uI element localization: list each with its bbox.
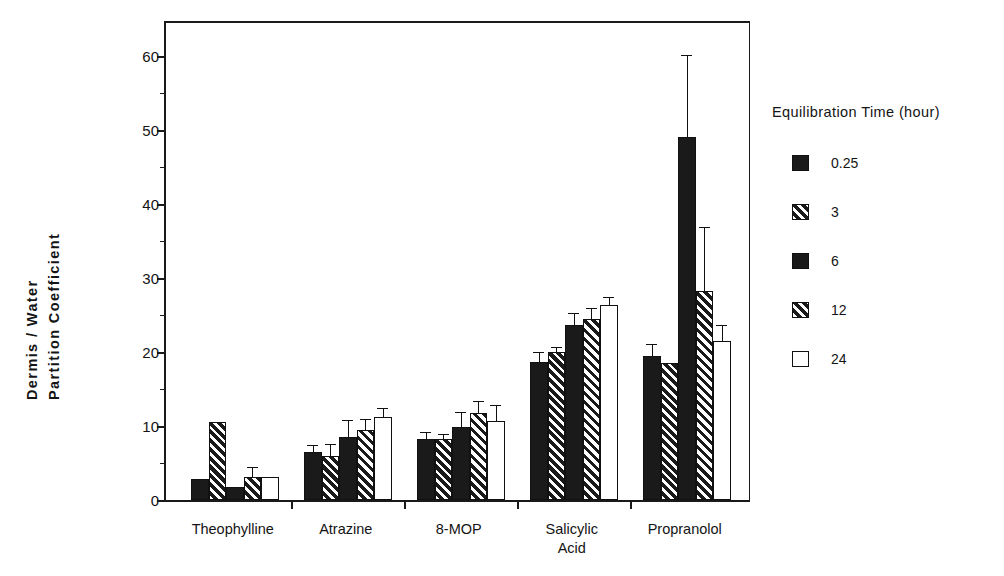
y-axis-title-line-1: Dermis / Water <box>24 279 40 400</box>
error-bar-cap <box>325 444 336 445</box>
y-tick-label: 60 <box>142 48 159 65</box>
legend-item-label: 3 <box>831 204 839 220</box>
error-bar-stem <box>443 435 444 439</box>
error-bar-stem <box>591 309 592 319</box>
bar-group <box>530 23 618 500</box>
bar[interactable] <box>417 439 435 500</box>
y-tick-mark-minor <box>160 167 166 168</box>
bar[interactable] <box>565 325 583 500</box>
legend-items: 0.25361224 <box>772 154 996 367</box>
bar[interactable] <box>678 137 696 500</box>
bar[interactable] <box>435 439 453 500</box>
error-bar-cap <box>342 420 353 421</box>
legend-swatch-icon <box>792 302 809 318</box>
bar[interactable] <box>487 421 505 500</box>
error-bar-cap <box>533 352 544 353</box>
y-tick-label: 10 <box>142 418 159 435</box>
bar[interactable] <box>374 417 392 500</box>
y-tick-mark-minor <box>160 463 166 464</box>
legend: Equilibration Time (hour) 0.25361224 <box>772 104 996 399</box>
error-bar-cap <box>716 325 727 326</box>
error-bar-cap <box>455 412 466 413</box>
legend-item-label: 12 <box>831 302 847 318</box>
error-bar-cap <box>438 434 449 435</box>
error-bar-cap <box>377 408 388 409</box>
error-bar-stem <box>383 409 384 417</box>
legend-title: Equilibration Time (hour) <box>772 104 996 120</box>
bar[interactable] <box>583 319 601 500</box>
error-bar-cap <box>603 297 614 298</box>
bar[interactable] <box>261 477 279 500</box>
bar-group <box>417 23 505 500</box>
x-axis-tick <box>630 500 632 509</box>
error-bar-cap <box>307 445 318 446</box>
error-bar-stem <box>556 348 557 352</box>
x-axis-label-propranolol: Propranolol <box>648 520 722 539</box>
x-axis-label-atrazine: Atrazine <box>319 520 372 539</box>
error-bar-stem <box>704 228 705 291</box>
error-bar-cap <box>490 405 501 406</box>
bar[interactable] <box>600 305 618 500</box>
error-bar-cap <box>473 401 484 402</box>
legend-item[interactable]: 12 <box>772 301 996 318</box>
y-tick-mark-minor <box>160 241 166 242</box>
bar[interactable] <box>357 430 375 500</box>
bar[interactable] <box>713 341 731 500</box>
bar[interactable] <box>452 427 470 500</box>
error-bar-stem <box>574 314 575 325</box>
y-tick-mark-minor <box>160 315 166 316</box>
error-bar-stem <box>609 298 610 305</box>
x-axis-tick <box>404 500 406 509</box>
bar[interactable] <box>322 456 340 500</box>
y-tick-label: 30 <box>142 270 159 287</box>
legend-item-label: 0.25 <box>831 155 858 171</box>
bar[interactable] <box>696 291 714 500</box>
error-bar-stem <box>652 345 653 356</box>
error-bar-stem <box>539 353 540 362</box>
legend-item[interactable]: 6 <box>772 252 996 269</box>
legend-swatch-icon <box>792 155 809 171</box>
error-bar-stem <box>461 413 462 428</box>
bar-chart-figure: Dermis / Water Partition Coefficient 010… <box>0 0 1004 576</box>
bar[interactable] <box>209 422 227 500</box>
bar[interactable] <box>304 452 322 500</box>
y-tick-label: 40 <box>142 196 159 213</box>
y-axis-title: Dermis / Water Partition Coefficient <box>14 0 84 520</box>
legend-item[interactable]: 0.25 <box>772 154 996 171</box>
x-axis-tick <box>291 500 293 509</box>
bar[interactable] <box>470 413 488 500</box>
error-bar-stem <box>252 468 253 477</box>
bar[interactable] <box>661 363 679 500</box>
y-axis-title-line-2: Partition Coefficient <box>46 233 62 400</box>
y-tick-label: 0 <box>151 492 159 509</box>
x-axis-tick <box>517 500 519 509</box>
bar[interactable] <box>226 487 244 500</box>
error-bar-cap <box>568 313 579 314</box>
bar[interactable] <box>244 477 262 500</box>
bar[interactable] <box>643 356 661 500</box>
legend-swatch-icon <box>792 253 809 269</box>
error-bar-cap <box>360 419 371 420</box>
bar[interactable] <box>339 437 357 500</box>
bar[interactable] <box>548 352 566 500</box>
legend-swatch-icon <box>792 351 809 367</box>
x-axis-label-salicylic-acid: Salicylic Acid <box>546 520 598 558</box>
legend-item-label: 24 <box>831 351 847 367</box>
error-bar-stem <box>330 445 331 456</box>
bar[interactable] <box>530 362 548 500</box>
legend-item[interactable]: 24 <box>772 350 996 367</box>
legend-item[interactable]: 3 <box>772 203 996 220</box>
error-bar-stem <box>722 326 723 341</box>
error-bar-cap <box>681 55 692 56</box>
error-bar-stem <box>687 56 688 137</box>
x-axis-label-8-mop: 8-MOP <box>436 520 482 539</box>
plot-area: 0102030405060 <box>164 21 750 502</box>
x-axis-label-theophylline: Theophylline <box>192 520 274 539</box>
error-bar-cap <box>586 308 597 309</box>
bar[interactable] <box>191 479 209 500</box>
error-bar-stem <box>426 433 427 439</box>
error-bar-cap <box>646 344 657 345</box>
error-bar-cap <box>420 432 431 433</box>
y-tick-label: 50 <box>142 122 159 139</box>
error-bar-stem <box>365 420 366 430</box>
